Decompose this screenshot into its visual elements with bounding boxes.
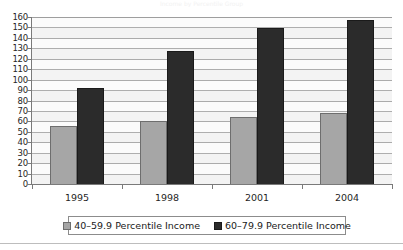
y-axis-tick-labels: 1601501401301201101009080706050403020100	[0, 12, 28, 184]
y-axis-tick-label: 50	[0, 128, 28, 137]
y-axis-tick-mark	[27, 121, 32, 122]
x-axis-tick-mark	[212, 184, 213, 189]
legend-swatch-icon-series-1	[214, 222, 222, 230]
bar-1995-series-1	[77, 88, 104, 185]
y-axis-tick-mark	[27, 27, 32, 28]
y-axis-tick-label: 30	[0, 149, 28, 158]
y-axis-tick-mark	[27, 80, 32, 81]
chart-plot-region: 1601501401301201101009080706050403020100…	[0, 12, 403, 194]
y-axis-tick-label: 120	[0, 55, 28, 64]
y-axis-tick-label: 60	[0, 117, 28, 126]
y-axis-tick-mark	[27, 153, 32, 154]
y-axis-tick-mark	[27, 38, 32, 39]
page-separator-rule	[0, 243, 403, 244]
y-axis-tick-label: 100	[0, 76, 28, 85]
y-axis-tick-label: 10	[0, 170, 28, 179]
x-axis-tick-mark	[302, 184, 303, 189]
bar-2004-series-1	[347, 20, 374, 185]
y-axis-tick-mark	[27, 111, 32, 112]
x-axis-tick-mark	[32, 184, 33, 189]
y-axis-tick-mark	[27, 132, 32, 133]
x-axis-label-1995: 1995	[32, 192, 122, 204]
plot-area	[32, 17, 392, 185]
legend-entry-series-0: 40–59.9 Percentile Income	[63, 220, 200, 231]
y-axis-tick-mark	[27, 142, 32, 143]
y-axis-tick-mark	[27, 17, 32, 18]
y-axis-tick-mark	[27, 101, 32, 102]
x-axis-category-labels: 1995199820012004	[32, 192, 392, 208]
legend-swatch-icon-series-0	[63, 222, 71, 230]
y-axis-tick-label: 0	[0, 180, 28, 189]
legend-label-series-0: 40–59.9 Percentile Income	[74, 220, 200, 231]
chart-legend: 40–59.9 Percentile Income 60–79.9 Percen…	[68, 216, 346, 235]
y-axis-tick-mark	[27, 69, 32, 70]
bar-chart-figure: Income by Percentile Group 1601501401301…	[0, 0, 403, 250]
bar-2004-series-0	[320, 113, 347, 185]
bar-2001-series-1	[257, 28, 284, 185]
bar-1995-series-0	[50, 126, 77, 185]
x-axis-label-2004: 2004	[302, 192, 392, 204]
y-axis-tick-label: 20	[0, 159, 28, 168]
y-axis-tick-label: 70	[0, 107, 28, 116]
x-axis-label-2001: 2001	[212, 192, 302, 204]
legend-label-series-1: 60–79.9 Percentile Income	[225, 220, 351, 231]
y-axis-tick-label: 140	[0, 34, 28, 43]
y-axis-tick-label: 150	[0, 23, 28, 32]
y-axis-tick-label: 130	[0, 44, 28, 53]
bar-1998-series-0	[140, 121, 167, 185]
bar-1998-series-1	[167, 51, 194, 185]
y-axis-tick-mark	[27, 163, 32, 164]
y-axis-tick-label: 80	[0, 97, 28, 106]
y-axis-tick-mark	[27, 48, 32, 49]
y-axis-tick-label: 110	[0, 65, 28, 74]
y-axis-tick-mark	[27, 59, 32, 60]
x-axis-label-1998: 1998	[122, 192, 212, 204]
y-axis-tick-label: 40	[0, 138, 28, 147]
x-axis-tick-mark	[122, 184, 123, 189]
cut-off-title: Income by Percentile Group	[0, 0, 403, 7]
y-axis-tick-label: 160	[0, 13, 28, 22]
y-axis-tick-mark	[27, 90, 32, 91]
x-axis-tick-mark	[392, 184, 393, 189]
bar-2001-series-0	[230, 117, 257, 185]
y-axis-tick-mark	[27, 174, 32, 175]
legend-entry-series-1: 60–79.9 Percentile Income	[214, 220, 351, 231]
y-axis-tick-label: 90	[0, 86, 28, 95]
